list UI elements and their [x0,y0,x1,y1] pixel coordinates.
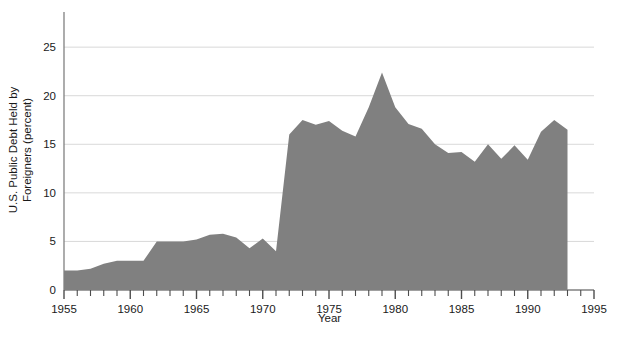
y-tick-label: 20 [43,90,56,102]
x-axis-title: Year [0,312,641,324]
y-tick-labels: 0510152025 [43,41,56,296]
area-chart-plot: 0510152025 19551960196519701975198019851… [0,0,641,337]
x-axis-title-label: Year [318,312,341,324]
y-tick-label: 0 [50,284,56,296]
area-series [64,72,568,290]
y-tick-label: 10 [43,187,56,199]
y-tick-label: 25 [43,41,56,53]
area-fill [64,72,568,290]
y-axis-title-line1: U.S. Public Debt Held by [7,87,19,214]
y-axis-title: U.S. Public Debt Held by Foreigners (per… [0,0,40,300]
y-axis-title-line2: Foreigners (percent) [21,98,33,202]
y-tick-label: 15 [43,138,56,150]
tick-marks [64,290,594,299]
chart-container: 0510152025 19551960196519701975198019851… [0,0,641,337]
y-tick-label: 5 [50,235,56,247]
